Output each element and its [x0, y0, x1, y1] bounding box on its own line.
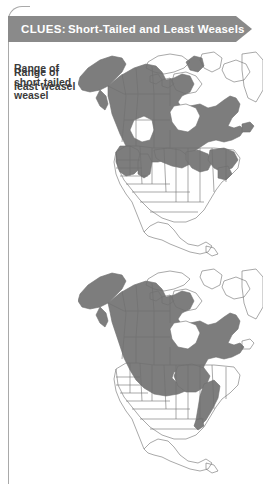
border-mask	[30, 4, 270, 16]
legend-line: least weasel	[14, 80, 92, 94]
clues-card: CLUES: Short-Tailed and Least Weasels Ra…	[0, 0, 271, 495]
clues-banner: CLUES: Short-Tailed and Least Weasels	[8, 16, 252, 42]
legend-line: Range of	[14, 66, 92, 80]
map-least-weasel	[78, 268, 263, 478]
banner-title: CLUES: Short-Tailed and Least Weasels	[21, 16, 245, 42]
north-america-map-svg	[78, 50, 263, 265]
legend-least-weasel: Range of least weasel	[14, 66, 92, 93]
banner-subject: Short-Tailed and Least Weasels	[68, 23, 245, 35]
banner-prefix: CLUES:	[21, 23, 66, 35]
map-short-tailed-weasel	[78, 50, 263, 265]
panel-least-weasel	[8, 268, 263, 478]
north-america-map-svg	[78, 268, 263, 478]
